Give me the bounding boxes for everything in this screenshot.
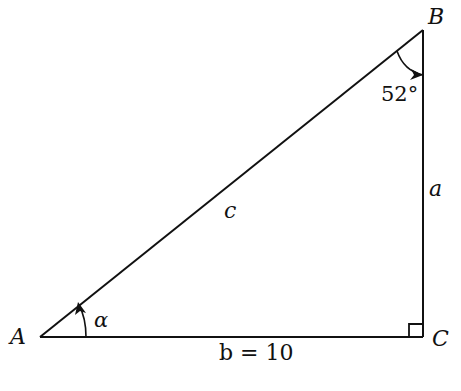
angle-label-b: 52° [381,84,418,105]
triangle-figure [0,0,461,391]
angle-b-arc [397,51,423,75]
side-c [40,30,423,337]
side-label-a: a [429,178,442,200]
vertex-label-b: B [428,6,444,28]
side-label-c: c [224,200,236,222]
side-label-b: b = 10 [219,342,294,364]
vertex-label-a: A [10,326,26,348]
angle-b-arrowhead [410,69,423,80]
angle-label-alpha: α [94,310,108,331]
right-angle-marker [409,324,423,337]
vertex-label-c: C [432,328,449,350]
